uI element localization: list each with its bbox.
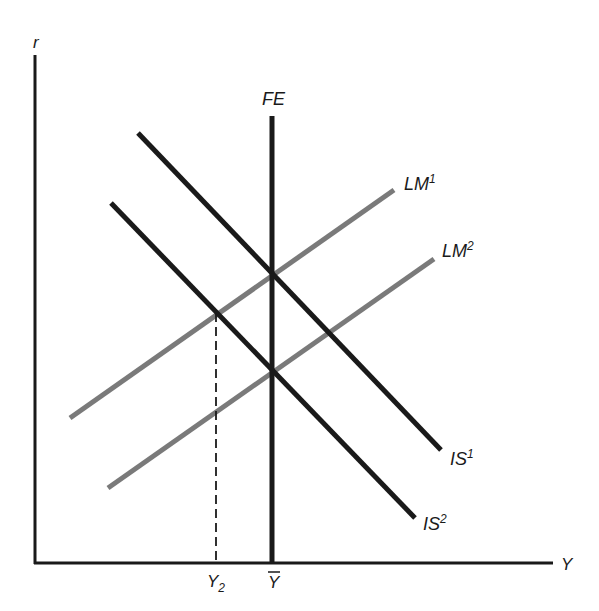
is1-curve	[138, 133, 441, 450]
lm2-label-sup: 2	[466, 239, 474, 253]
is2-label-sup: 2	[439, 512, 447, 526]
lm1-label-sup: 1	[429, 172, 436, 186]
lm1-label-base: LM	[404, 174, 429, 194]
lm1-label: LM1	[404, 172, 436, 194]
fe-label: FE	[262, 89, 286, 109]
y2-tick-label: Y2	[207, 572, 225, 595]
y2-label-sub: 2	[217, 581, 225, 595]
lm1-curve	[70, 190, 394, 418]
ybar-label: Y	[268, 573, 281, 592]
is1-label-base: IS	[450, 449, 467, 469]
is1-label: IS1	[450, 447, 474, 469]
x-axis-label: Y	[561, 555, 574, 574]
lm2-label-base: LM	[442, 241, 467, 261]
lm2-label: LM2	[442, 239, 474, 261]
is2-label-base: IS	[423, 514, 440, 534]
is1-label-sup: 1	[467, 447, 474, 461]
is2-label: IS2	[423, 512, 447, 534]
y-axis-label: r	[33, 33, 40, 52]
ybar-tick-label: Y	[268, 572, 281, 592]
is-lm-fe-diagram: r Y FE LM1 LM2 IS1 IS2 Y2 Y	[0, 0, 599, 611]
is2-curve	[111, 203, 415, 518]
